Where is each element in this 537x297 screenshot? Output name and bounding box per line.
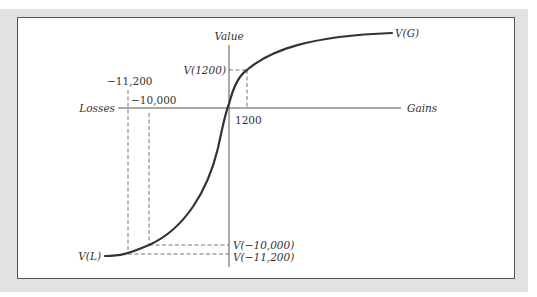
y-axis-label: Value (214, 30, 243, 42)
tick-label-minus-10000: −10,000 (131, 94, 177, 106)
curve-label-vl: V(L) (78, 250, 101, 262)
value-function-diagram: Value Losses Gains 1200 −11,200 −10,000 … (0, 0, 537, 297)
tick-label-minus-11200: −11,200 (107, 75, 153, 87)
y-tick-v1200: V(1200) (184, 64, 227, 76)
y-tick-v-minus-10000: V(−10,000) (233, 239, 294, 251)
curve-label-vg: V(G) (395, 27, 419, 39)
value-curve (105, 33, 392, 256)
x-axis-losses-label: Losses (78, 102, 115, 114)
x-axis-gains-label: Gains (407, 102, 438, 114)
tick-label-1200: 1200 (235, 114, 262, 126)
y-tick-v-minus-11200: V(−11,200) (233, 251, 294, 263)
